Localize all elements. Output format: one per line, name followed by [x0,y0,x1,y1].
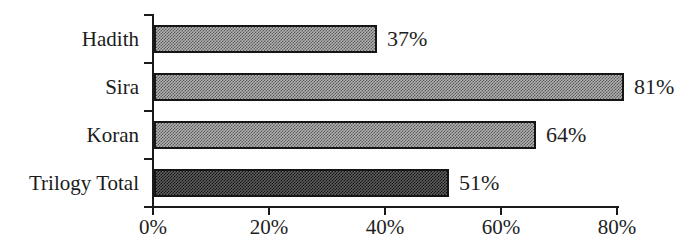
y-tick-mark [144,158,153,160]
category-label: Hadith [0,25,139,53]
value-label: 64% [546,122,586,148]
x-tick-label: 0% [118,214,188,240]
trilogy-bar-chart-figure: Hadith 37% Sira 81% Koran 64% Trilogy To… [0,0,695,252]
category-label: Trilogy Total [0,169,139,197]
x-tick-label: 80% [582,214,652,240]
x-tick-label: 20% [234,214,304,240]
value-label: 37% [387,26,427,52]
bar: 81% [154,73,624,101]
value-label: 51% [459,170,499,196]
bar: 37% [154,25,377,53]
value-label: 81% [634,74,674,100]
category-label: Sira [0,73,139,101]
y-tick-mark [144,110,153,112]
bar: 51% [154,169,449,197]
x-tick-label: 60% [466,214,536,240]
bar: 64% [154,121,536,149]
category-label: Koran [0,121,139,149]
y-tick-mark [144,62,153,64]
x-tick-label: 40% [350,214,420,240]
y-tick-mark [144,14,153,16]
